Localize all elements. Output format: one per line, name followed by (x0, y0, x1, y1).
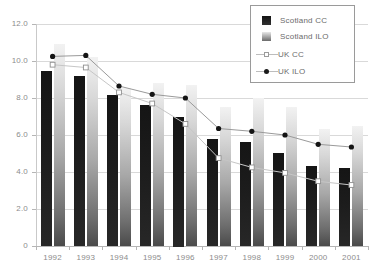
legend-swatch-scotland-ilo-icon (262, 32, 271, 41)
legend-line-uk-ilo-icon (256, 67, 278, 76)
marker-uk-ilo (183, 95, 188, 100)
legend-item-scotland-ilo: Scotland ILO (262, 29, 329, 43)
legend-item-uk-ilo: UK ILO (256, 64, 305, 78)
legend-label-scotland-ilo: Scotland ILO (280, 32, 329, 41)
legend-label-uk-ilo: UK ILO (278, 67, 305, 76)
legend-item-scotland-cc: Scotland CC (262, 13, 327, 27)
legend-label-scotland-cc: Scotland CC (280, 16, 327, 25)
x-axis-tick (335, 246, 336, 250)
marker-uk-ilo (116, 83, 121, 88)
x-axis-tick-label: 2001 (335, 253, 367, 262)
x-axis-tick-label: 1995 (136, 253, 168, 262)
marker-uk-ilo (316, 142, 321, 147)
legend-item-uk-cc: UK CC (256, 47, 304, 61)
x-axis-tick (368, 246, 369, 250)
chart-legend: Scotland CC Scotland ILO UK CC UK ILO (250, 5, 355, 83)
x-axis-tick-label: 1998 (236, 253, 268, 262)
x-axis-tick (102, 246, 103, 250)
x-axis-tick-label: 1993 (70, 253, 102, 262)
x-axis-tick (136, 246, 137, 250)
x-axis-tick-label: 1997 (203, 253, 235, 262)
x-axis-tick-label: 1996 (169, 253, 201, 262)
x-axis-tick-label: 1994 (103, 253, 135, 262)
x-axis-tick (235, 246, 236, 250)
unemployment-rate-chart: 02.04.06.08.010.012.0 199219931994199519… (0, 0, 376, 278)
marker-uk-ilo (83, 53, 88, 58)
marker-uk-cc (117, 90, 122, 95)
x-axis-tick (202, 246, 203, 250)
marker-uk-cc (83, 65, 88, 70)
x-axis-tick-label: 1992 (37, 253, 69, 262)
x-axis-tick (268, 246, 269, 250)
marker-uk-cc (349, 183, 354, 188)
marker-uk-ilo (216, 126, 221, 131)
x-axis-tick (69, 246, 70, 250)
x-axis-tick (302, 246, 303, 250)
marker-uk-ilo (150, 92, 155, 97)
legend-line-uk-cc-icon (256, 50, 278, 59)
marker-uk-cc (50, 62, 55, 67)
x-axis-tick (169, 246, 170, 250)
x-axis-tick-label: 2000 (302, 253, 334, 262)
marker-uk-cc (150, 101, 155, 106)
marker-uk-cc (216, 156, 221, 161)
marker-uk-cc (316, 179, 321, 184)
legend-swatch-scotland-cc-icon (262, 16, 271, 25)
legend-label-uk-cc: UK CC (278, 50, 304, 59)
marker-uk-ilo (50, 54, 55, 59)
marker-uk-cc (283, 171, 288, 176)
marker-uk-ilo (282, 132, 287, 137)
marker-uk-ilo (349, 144, 354, 149)
marker-uk-cc (249, 165, 254, 170)
marker-uk-ilo (249, 129, 254, 134)
x-axis-tick (36, 246, 37, 250)
marker-uk-cc (183, 122, 188, 127)
x-axis-tick-label: 1999 (269, 253, 301, 262)
